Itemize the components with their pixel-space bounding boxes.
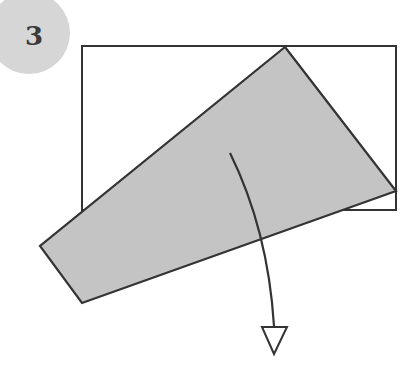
fold-arrow-head-icon [262, 327, 287, 354]
fold-diagram [0, 0, 417, 381]
